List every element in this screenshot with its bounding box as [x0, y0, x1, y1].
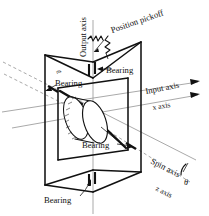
position-pickoff-symbol — [88, 36, 110, 59]
input-axis-arrowhead — [190, 79, 200, 85]
spin-axis-label: Spin axis — [149, 156, 182, 180]
bearing-left-label: Bearing — [55, 78, 83, 88]
part-mark-label: rts — [55, 67, 62, 75]
gyroscope-diagram: Output axis Position pickoff Bearing Bea… — [0, 0, 209, 216]
position-pickoff-label: Position pickoff — [109, 7, 164, 34]
input-axis-label: Input axis — [144, 80, 180, 96]
outer-frame-bottom-right-edge — [93, 170, 141, 172]
z-axis-label: z axis — [154, 184, 174, 200]
bearing-bottom-label: Bearing — [44, 195, 72, 205]
spin-axis-dashed-left — [3, 62, 62, 92]
diagram-canvas: Output axis Position pickoff Bearing Bea… — [0, 0, 209, 216]
bearing-top-arrowhead — [97, 67, 103, 72]
bearing-center-label: Bearing — [82, 140, 110, 150]
pickoff-leader — [94, 40, 104, 52]
rotor — [59, 94, 113, 147]
x-axis-arrowhead — [190, 92, 200, 98]
bearing-top-label: Bearing — [106, 65, 134, 75]
bearing-top-mark — [89, 62, 95, 76]
x-axis-label: x axis — [152, 100, 171, 112]
outer-frame-bottom-left-edge — [45, 170, 93, 185]
output-axis-label: Output axis — [78, 16, 88, 57]
theta-label: θ — [184, 178, 188, 187]
outer-frame-bottom-front-edge — [93, 172, 141, 192]
